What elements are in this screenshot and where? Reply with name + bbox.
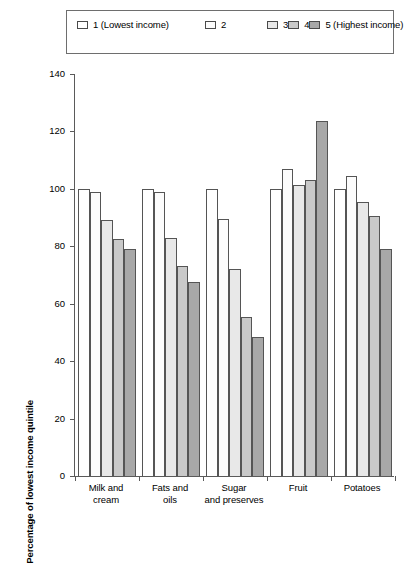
bar: [165, 238, 177, 476]
x-axis-label: Potatoes: [318, 482, 406, 494]
bar: [380, 249, 392, 476]
bar-group: [334, 75, 392, 476]
x-tick-mark: [331, 476, 332, 481]
bar: [293, 185, 305, 476]
bar: [241, 317, 253, 476]
bar: [305, 180, 317, 476]
y-tick-label: 40: [39, 355, 65, 366]
legend-item-2: 2: [205, 20, 267, 30]
legend-label-5: 5 (Highest income): [325, 20, 403, 30]
bar: [113, 239, 125, 476]
bar: [252, 337, 264, 476]
bar: [154, 192, 166, 476]
y-tick-mark: [70, 361, 75, 362]
x-tick-mark: [75, 476, 76, 481]
y-tick-mark: [70, 189, 75, 190]
y-axis-title: Percentage of lowest income quintile: [24, 400, 35, 564]
legend-swatch-icon-4: [288, 21, 299, 29]
y-tick-mark: [70, 74, 75, 75]
legend-swatch-icon-3: [267, 21, 278, 29]
bar: [188, 282, 200, 476]
y-tick-label: 20: [39, 413, 65, 424]
bar-group: [78, 75, 136, 476]
legend-swatch-icon-5: [309, 21, 320, 29]
y-tick-label: 120: [39, 125, 65, 136]
x-tick-mark: [203, 476, 204, 481]
chart-legend: 1 (Lowest income) 2 3 4 5 (Highest incom…: [66, 10, 394, 54]
bar: [316, 121, 328, 476]
legend-entries: 1 (Lowest income) 2 3 4 5 (Highest incom…: [77, 16, 389, 33]
y-tick-mark: [70, 419, 75, 420]
legend-item-1: 1 (Lowest income): [77, 20, 205, 30]
bar: [142, 189, 154, 476]
bar: [78, 189, 90, 476]
legend-swatch-icon-2: [205, 21, 216, 29]
bar-group: [206, 75, 264, 476]
y-tick-label: 60: [39, 298, 65, 309]
y-tick-label: 100: [39, 183, 65, 194]
legend-item-5: 5 (Highest income): [309, 20, 403, 30]
legend-label-2: 2: [221, 20, 226, 30]
bar-group: [142, 75, 200, 476]
y-tick-label: 80: [39, 240, 65, 251]
x-tick-mark: [395, 476, 396, 481]
bar: [369, 216, 381, 476]
x-tick-mark: [139, 476, 140, 481]
bar: [346, 176, 358, 476]
y-tick-label: 140: [39, 68, 65, 79]
bar-group: [270, 75, 328, 476]
x-tick-mark: [267, 476, 268, 481]
y-tick-mark: [70, 131, 75, 132]
bar: [90, 192, 102, 476]
y-tick-label: 0: [39, 470, 65, 481]
legend-item-3: 3: [267, 20, 288, 30]
legend-item-4: 4: [288, 20, 309, 30]
bar: [124, 249, 136, 476]
bar: [218, 219, 230, 476]
bar: [270, 189, 282, 476]
legend-label-1: 1 (Lowest income): [93, 20, 169, 30]
bar: [177, 266, 189, 476]
bar: [282, 169, 294, 476]
y-tick-mark: [70, 246, 75, 247]
bar: [334, 189, 346, 476]
bar: [206, 189, 218, 476]
bar: [101, 220, 113, 476]
legend-swatch-icon-1: [77, 21, 88, 29]
y-tick-mark: [70, 304, 75, 305]
bar: [357, 202, 369, 476]
bar: [229, 269, 241, 476]
plot-area: 020406080100120140: [74, 75, 394, 477]
